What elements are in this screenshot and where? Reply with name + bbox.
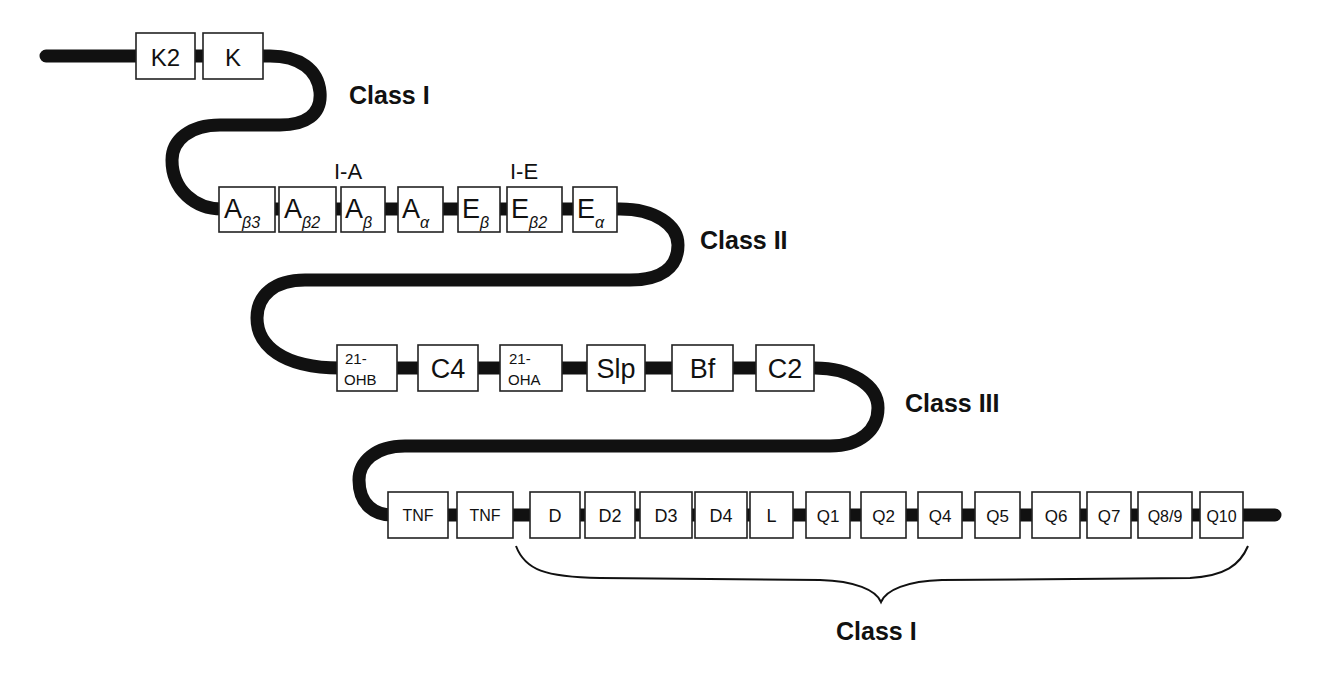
gene-label-D4: D4 [709, 506, 732, 526]
gene-label-Ab2-sub: β2 [301, 214, 320, 231]
gene-label-Ab3-sub: β3 [241, 214, 260, 231]
gene-label-Eb-sub: β [479, 214, 489, 231]
gene-label-Eb2-sub: β2 [528, 214, 547, 231]
gene-label-Ab-sub: β [362, 214, 372, 231]
row-class-ii: Aβ3 Aβ2 Aβ Aα Eβ Eβ2 Eα [219, 187, 617, 232]
class-i-brace [516, 546, 1248, 602]
gene-label-Q5: Q5 [986, 507, 1009, 526]
label-class-ii: Class II [700, 226, 788, 254]
gene-label-L: L [766, 506, 776, 526]
label-class-i-bottom: Class I [836, 617, 917, 645]
gene-label-21-OHB-line2: OHB [344, 371, 377, 388]
gene-label-Q1: Q1 [817, 507, 840, 526]
label-i-a: I-A [334, 159, 362, 184]
gene-label-Aa-main: A [402, 194, 420, 224]
mhc-gene-map-diagram: K2 K Aβ3 Aβ2 Aβ Aα Eβ Eβ2 Eα [0, 0, 1319, 683]
gene-label-Slp: Slp [596, 354, 635, 384]
gene-label-TNF-1: TNF [402, 507, 433, 524]
gene-label-TNF-2: TNF [469, 507, 500, 524]
gene-label-D2: D2 [598, 506, 621, 526]
gene-label-Ab3-main: A [224, 194, 242, 224]
gene-label-Ea-main: E [577, 194, 595, 224]
gene-label-Bf: Bf [690, 354, 716, 384]
gene-label-Q6: Q6 [1045, 507, 1068, 526]
gene-label-Q8-9: Q8/9 [1148, 508, 1183, 525]
label-class-i-top: Class I [349, 81, 430, 109]
gene-label-D3: D3 [654, 506, 677, 526]
gene-label-Aa-sub: α [420, 214, 430, 231]
gene-label-Q10: Q10 [1206, 508, 1236, 525]
gene-label-21-OHB-line1: 21- [345, 350, 367, 367]
gene-label-D: D [549, 506, 562, 526]
gene-label-Ab2-main: A [284, 194, 302, 224]
gene-label-C4: C4 [431, 354, 466, 384]
chromosome-backbone [46, 56, 1275, 515]
gene-label-Q2: Q2 [872, 507, 895, 526]
gene-label-K2: K2 [151, 44, 180, 71]
gene-label-21-OHA-line1: 21- [509, 350, 531, 367]
gene-label-21-OHA-line2: OHA [508, 371, 541, 388]
label-i-e: I-E [510, 159, 538, 184]
gene-label-C2: C2 [768, 354, 803, 384]
gene-label-K: K [225, 44, 241, 71]
gene-label-Ea-sub: α [595, 214, 605, 231]
gene-label-Eb2-main: E [511, 194, 529, 224]
gene-label-Ab-main: A [345, 194, 363, 224]
gene-label-Q7: Q7 [1098, 507, 1121, 526]
gene-label-Eb-main: E [462, 194, 480, 224]
gene-label-Q4: Q4 [929, 507, 952, 526]
label-class-iii: Class III [905, 389, 1000, 417]
